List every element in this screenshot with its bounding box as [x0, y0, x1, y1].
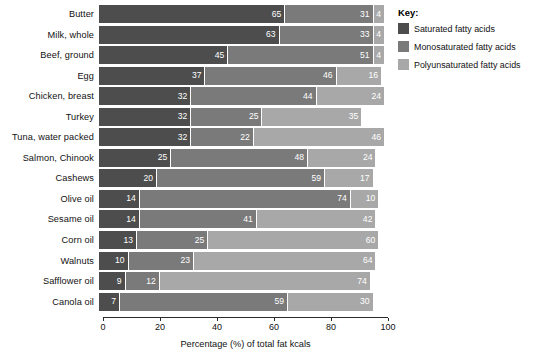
bar-segment-sat: 7 [99, 293, 119, 311]
row-label: Turkey [0, 112, 99, 122]
x-axis-ticks: 020406080100 [103, 318, 388, 332]
axis-tick-mark [103, 318, 104, 321]
table-row: Cashews205917 [0, 169, 400, 187]
bar-segment-sat: 14 [99, 210, 139, 228]
axis-tick-label: 100 [380, 322, 395, 332]
bar-track: 65314 [99, 5, 384, 23]
table-row: Canola oil75930 [0, 293, 400, 311]
bar-segment-sat: 32 [99, 108, 190, 126]
bar-segment-value: 7 [111, 297, 119, 306]
bar-segment-sat: 37 [99, 67, 204, 85]
axis-tick-label: 60 [269, 322, 279, 332]
bar-segment-value: 17 [360, 174, 373, 183]
bar-segment-value: 44 [303, 92, 316, 101]
bar-segment-value: 32 [178, 92, 191, 101]
table-row: Milk, whole63334 [0, 26, 400, 44]
axis-tick-label: 20 [155, 322, 165, 332]
bar-segment-value: 10 [115, 256, 128, 265]
legend-label: Polyunsaturated fatty acids [414, 60, 521, 70]
table-row: Sesame oil144142 [0, 210, 400, 228]
bar-segment-sat: 45 [99, 46, 227, 64]
bar-segment-value: 31 [360, 10, 373, 19]
legend-item: Polyunsaturated fatty acids [398, 59, 536, 70]
bar-segment-value: 16 [369, 71, 382, 80]
bar-segment-poly: 4 [373, 5, 384, 23]
stacked-bar-chart: Butter65314Milk, whole63334Beef, ground4… [0, 0, 538, 364]
axis-tick-mark [274, 318, 275, 321]
bar-segment-value: 32 [178, 112, 191, 121]
bar-segment-value: 13 [123, 236, 136, 245]
bar-track: 132560 [99, 231, 384, 249]
table-row: Tuna, water packed322246 [0, 128, 400, 146]
bar-segment-value: 12 [146, 277, 159, 286]
bar-segment-value: 65 [272, 10, 285, 19]
bar-track: 374616 [99, 67, 384, 85]
bar-segment-value: 23 [180, 256, 193, 265]
bar-segment-sat: 65 [99, 5, 284, 23]
bar-track: 322246 [99, 128, 384, 146]
bar-segment-poly: 64 [193, 252, 375, 270]
bar-segment-value: 14 [126, 194, 139, 203]
table-row: Beef, ground45514 [0, 46, 400, 64]
bar-segment-value: 45 [215, 51, 228, 60]
bar-segment-value: 48 [294, 153, 307, 162]
bar-segment-mono: 48 [170, 149, 307, 167]
bar-segment-poly: 74 [159, 272, 370, 290]
bar-segment-mono: 22 [190, 128, 253, 146]
bar-segment-value: 32 [178, 133, 191, 142]
bar-track: 254824 [99, 149, 384, 167]
bar-segment-value: 4 [376, 10, 384, 19]
bar-segment-mono: 51 [227, 46, 372, 64]
x-axis-title: Percentage (%) of total fat kcals [103, 339, 388, 350]
legend: Key: Saturated fatty acidsMonosaturated … [398, 7, 536, 77]
row-label: Butter [0, 9, 99, 19]
bar-segment-poly: 46 [253, 128, 384, 146]
bar-segment-poly: 30 [287, 293, 373, 311]
bar-segment-value: 14 [126, 215, 139, 224]
bar-segment-sat: 32 [99, 87, 190, 105]
bar-segment-poly: 60 [207, 231, 378, 249]
bar-segment-value: 24 [371, 92, 384, 101]
legend-item: Monosaturated fatty acids [398, 41, 536, 52]
bar-segment-mono: 59 [119, 293, 287, 311]
bar-segment-value: 46 [371, 133, 384, 142]
axis-tick-mark [217, 318, 218, 321]
axis-tick-mark [388, 318, 389, 321]
table-row: Corn oil132560 [0, 231, 400, 249]
legend-swatch-icon [398, 59, 409, 70]
bar-segment-mono: 74 [139, 190, 350, 208]
legend-label: Saturated fatty acids [414, 24, 495, 34]
bar-segment-value: 10 [366, 194, 379, 203]
row-label: Walnuts [0, 256, 99, 266]
bar-segment-poly: 16 [336, 67, 382, 85]
bar-track: 102364 [99, 252, 384, 270]
bar-segment-value: 35 [349, 112, 362, 121]
bar-segment-value: 46 [323, 71, 336, 80]
bar-segment-mono: 31 [284, 5, 372, 23]
bar-segment-mono: 46 [204, 67, 335, 85]
axis-tick-mark [160, 318, 161, 321]
row-label: Canola oil [0, 297, 99, 307]
row-label: Corn oil [0, 235, 99, 245]
legend-label: Monosaturated fatty acids [414, 42, 516, 52]
legend-item: Saturated fatty acids [398, 23, 536, 34]
bar-segment-mono: 59 [156, 169, 324, 187]
bar-track: 147410 [99, 190, 384, 208]
bar-segment-value: 59 [275, 297, 288, 306]
plot-area: Butter65314Milk, whole63334Beef, ground4… [0, 5, 400, 315]
legend-swatch-icon [398, 41, 409, 52]
bar-segment-value: 37 [192, 71, 205, 80]
bar-segment-value: 60 [366, 236, 379, 245]
bar-segment-mono: 12 [125, 272, 159, 290]
bar-segment-value: 42 [363, 215, 376, 224]
bar-segment-mono: 25 [136, 231, 207, 249]
row-label: Beef, ground [0, 50, 99, 60]
bar-track: 91274 [99, 272, 384, 290]
bar-segment-value: 74 [357, 277, 370, 286]
table-row: Chicken, breast324424 [0, 87, 400, 105]
bar-segment-poly: 35 [261, 108, 361, 126]
bar-track: 63334 [99, 26, 384, 44]
bar-segment-value: 59 [312, 174, 325, 183]
bar-segment-value: 63 [266, 30, 279, 39]
bar-segment-value: 33 [360, 30, 373, 39]
